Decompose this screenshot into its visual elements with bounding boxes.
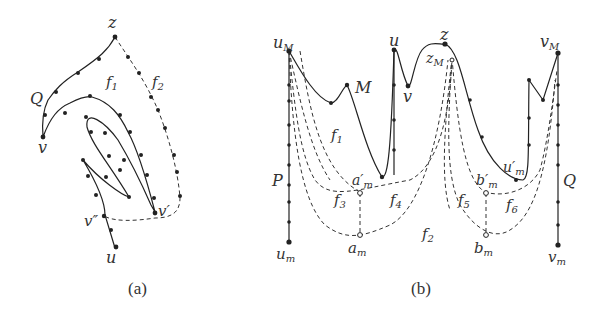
- label-bm-prime: b′m: [476, 172, 498, 190]
- label-P: P: [271, 171, 283, 190]
- vertices-b: [286, 41, 560, 247]
- label-f4: f4: [389, 191, 402, 210]
- figure-canvas: z Q f1 f2 v v′ v″ u (a): [0, 0, 601, 313]
- label-v-dprime: v″: [84, 212, 98, 230]
- label-f6: f6: [505, 196, 519, 215]
- label-z: z: [107, 13, 117, 32]
- label-v: v: [403, 87, 412, 106]
- dash-f3-outer: [289, 51, 452, 192]
- label-Q: Q: [563, 171, 576, 190]
- label-vm: vm: [548, 248, 566, 267]
- label-am: am: [348, 239, 366, 258]
- label-f1: f1: [330, 126, 343, 145]
- label-Q: Q: [30, 89, 43, 108]
- label-M: M: [354, 78, 372, 97]
- label-v-prime: v′: [158, 202, 170, 220]
- dash-uM-inner2: [300, 51, 360, 192]
- path-q: [43, 37, 155, 248]
- path-f2-boundary: [104, 37, 180, 220]
- caption-b: (b): [411, 279, 431, 298]
- label-zM: zM: [425, 50, 444, 68]
- label-f2: f2: [151, 73, 164, 92]
- dash-uM-inner: [289, 51, 330, 180]
- panel-b: uM u z zM vM M v f1 P Q a′m b′m u′m f3 f…: [271, 25, 576, 298]
- label-v: v: [38, 138, 47, 157]
- panel-a: z Q f1 f2 v v′ v″ u (a): [30, 13, 182, 298]
- label-u: u: [106, 248, 116, 267]
- label-um-prime: u′m: [503, 159, 525, 177]
- label-z: z: [439, 25, 449, 44]
- label-uM: uM: [273, 33, 294, 53]
- label-vM: vM: [540, 32, 560, 52]
- label-f1: f1: [105, 73, 118, 92]
- label-u: u: [389, 31, 399, 50]
- label-f5: f5: [457, 191, 470, 210]
- figure: z Q f1 f2 v v′ v″ u (a): [0, 0, 601, 313]
- label-f2: f2: [421, 225, 434, 244]
- caption-a: (a): [128, 279, 147, 298]
- label-bm: bm: [474, 239, 493, 258]
- label-um: um: [276, 245, 295, 264]
- label-am-prime: a′m: [352, 172, 373, 190]
- label-f3: f3: [333, 191, 346, 210]
